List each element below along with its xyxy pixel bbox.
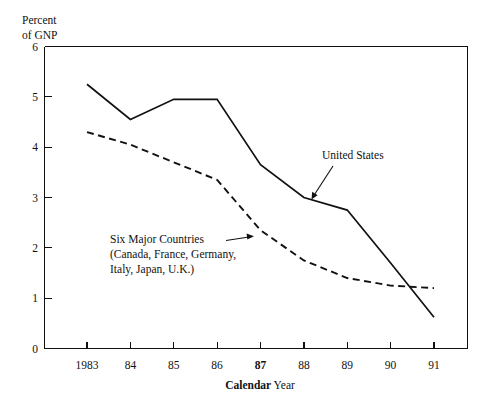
ytick-label-4: 4 bbox=[32, 141, 38, 153]
annotation-label-six-major-line1: Six Major Countries bbox=[110, 233, 204, 246]
ytick-label-3: 3 bbox=[32, 192, 38, 204]
y-axis-title-line2: of GNP bbox=[22, 29, 57, 41]
annotation-label-six-major-line3: Italy, Japan, U.K.) bbox=[110, 263, 194, 276]
y-axis-ticks bbox=[45, 47, 52, 349]
plot-frame bbox=[45, 47, 468, 349]
xtick-label-91: 91 bbox=[428, 359, 440, 371]
xtick-label-90: 90 bbox=[385, 359, 397, 371]
xtick-label-89: 89 bbox=[342, 359, 354, 371]
ytick-label-1: 1 bbox=[32, 292, 38, 304]
annotation-united-states: United States bbox=[312, 149, 385, 200]
x-axis-title-bold: Calendar bbox=[225, 379, 271, 391]
chart-container: 6 5 4 3 2 1 0 Percent of GNP 1983 84 85 … bbox=[0, 0, 491, 399]
annotation-six-major-countries: Six Major Countries (Canada, France, Ger… bbox=[110, 233, 254, 276]
x-axis-title: Calendar Year bbox=[225, 379, 295, 391]
xtick-label-85: 85 bbox=[168, 359, 180, 371]
annotation-label-six-major-line2: (Canada, France, Germany, bbox=[110, 248, 236, 261]
y-axis-title-line1: Percent bbox=[22, 14, 57, 26]
x-axis-ticks bbox=[87, 342, 434, 349]
ytick-label-2: 2 bbox=[32, 242, 38, 254]
arrowhead-icon bbox=[247, 234, 254, 240]
xtick-label-86: 86 bbox=[211, 359, 223, 371]
annotation-label-united-states: United States bbox=[322, 149, 384, 161]
x-axis-title-light: Year bbox=[271, 379, 295, 391]
xtick-label-1983: 1983 bbox=[76, 359, 99, 371]
arrowhead-icon bbox=[312, 192, 318, 200]
ytick-label-0: 0 bbox=[32, 343, 38, 355]
ytick-label-5: 5 bbox=[32, 91, 38, 103]
ytick-label-6: 6 bbox=[32, 41, 38, 53]
series-line-united-states bbox=[87, 84, 434, 317]
xtick-label-88: 88 bbox=[298, 359, 310, 371]
xtick-label-87: 87 bbox=[255, 359, 267, 371]
line-chart-svg: 6 5 4 3 2 1 0 Percent of GNP 1983 84 85 … bbox=[0, 0, 491, 399]
xtick-label-84: 84 bbox=[125, 359, 137, 371]
